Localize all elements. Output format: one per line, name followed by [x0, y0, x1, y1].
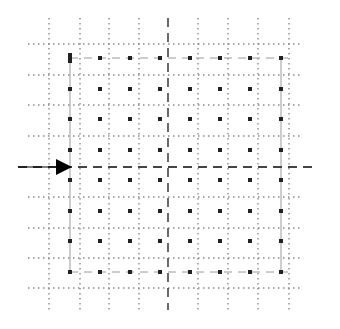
lattice-point [158, 178, 162, 182]
lattice-point [279, 56, 283, 60]
lattice-point [218, 209, 222, 213]
lattice-point [279, 239, 283, 243]
point-lattice [68, 53, 283, 274]
lattice-point [279, 209, 283, 213]
lattice-point [248, 56, 252, 60]
lattice-point [188, 270, 192, 274]
lattice-point [128, 239, 132, 243]
arrow-right-icon [18, 159, 72, 175]
lattice-point [248, 209, 252, 213]
lattice-point [158, 87, 162, 91]
lattice-point [128, 178, 132, 182]
lattice-point [158, 270, 162, 274]
lattice-point [218, 87, 222, 91]
lattice-point [279, 270, 283, 274]
lattice-point [188, 209, 192, 213]
lattice-point [248, 148, 252, 152]
lattice-point [98, 270, 102, 274]
lattice-point [218, 148, 222, 152]
lattice-point [218, 117, 222, 121]
lattice-point [128, 56, 132, 60]
lattice-point [68, 87, 72, 91]
lattice-point [279, 148, 283, 152]
lattice-point [158, 117, 162, 121]
lattice-point [98, 87, 102, 91]
corner-marker [68, 53, 72, 63]
lattice-point [68, 270, 72, 274]
lattice-point [279, 87, 283, 91]
lattice-point [188, 87, 192, 91]
lattice-point [248, 87, 252, 91]
lattice-point [68, 209, 72, 213]
lattice-point [98, 148, 102, 152]
lattice-point [188, 239, 192, 243]
lattice-point [128, 148, 132, 152]
lattice-point [158, 56, 162, 60]
inner-frame [70, 58, 289, 272]
lattice-point [158, 239, 162, 243]
lattice-point [188, 56, 192, 60]
lattice-point [98, 209, 102, 213]
lattice-point [128, 87, 132, 91]
lattice-point [128, 209, 132, 213]
lattice-point [68, 148, 72, 152]
lattice-point [128, 117, 132, 121]
lattice-point [98, 56, 102, 60]
lattice-point [128, 270, 132, 274]
lattice-point [158, 209, 162, 213]
lattice-point [98, 239, 102, 243]
lattice-point [188, 178, 192, 182]
lattice-point [68, 178, 72, 182]
lattice-point [188, 117, 192, 121]
lattice-point [279, 178, 283, 182]
grid-diagram [0, 0, 340, 329]
diagram-drawing [0, 0, 340, 329]
lattice-point [218, 178, 222, 182]
lattice-point [188, 148, 192, 152]
lattice-point [248, 239, 252, 243]
lattice-point [218, 270, 222, 274]
lattice-point [98, 117, 102, 121]
lattice-point [158, 148, 162, 152]
lattice-point [248, 178, 252, 182]
lattice-point [218, 56, 222, 60]
lattice-point [248, 270, 252, 274]
lattice-point [68, 239, 72, 243]
lattice-point [248, 117, 252, 121]
lattice-point [68, 117, 72, 121]
lattice-point [218, 239, 222, 243]
lattice-point [279, 117, 283, 121]
lattice-point [98, 178, 102, 182]
